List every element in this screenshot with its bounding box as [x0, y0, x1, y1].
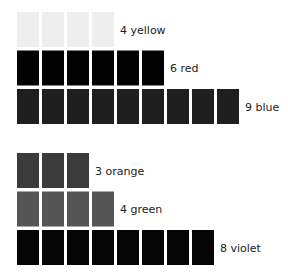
red-block: [17, 51, 39, 86]
violet-block: [167, 230, 189, 265]
violet-block: [117, 230, 139, 265]
yellow-block: [67, 12, 89, 47]
orange-block: [17, 153, 39, 188]
yellow-block: [92, 12, 114, 47]
blue-block: [42, 89, 64, 124]
red-block: [142, 51, 164, 86]
red-block: [42, 51, 64, 86]
yellow-block: [42, 12, 64, 47]
violet-block: [67, 230, 89, 265]
violet-block: [192, 230, 214, 265]
red-block: [92, 51, 114, 86]
orange-label: 3 orange: [95, 165, 144, 178]
blue-block: [192, 89, 214, 124]
block-group-1: 4 yellow6 red9 blue: [17, 12, 280, 124]
orange-block: [67, 153, 89, 188]
red-block: [67, 51, 89, 86]
green-block: [92, 192, 114, 227]
violet-block: [142, 230, 164, 265]
block-group-2: 3 orange4 green8 violet: [17, 153, 262, 265]
green-label: 4 green: [120, 203, 162, 216]
blue-block: [67, 89, 89, 124]
yellow-block: [17, 12, 39, 47]
blue-block: [117, 89, 139, 124]
green-block: [67, 192, 89, 227]
green-block: [17, 192, 39, 227]
yellow-label: 4 yellow: [120, 24, 166, 37]
blue-block: [167, 89, 189, 124]
unit-block-chart: 4 yellow6 red9 blue3 orange4 green8 viol…: [0, 0, 288, 279]
blue-block: [142, 89, 164, 124]
red-block: [117, 51, 139, 86]
blue-label: 9 blue: [245, 101, 280, 114]
red-label: 6 red: [170, 62, 199, 75]
violet-block: [92, 230, 114, 265]
violet-block: [17, 230, 39, 265]
green-block: [42, 192, 64, 227]
violet-label: 8 violet: [220, 242, 262, 255]
blue-block: [17, 89, 39, 124]
blue-block: [217, 89, 239, 124]
orange-block: [42, 153, 64, 188]
violet-block: [42, 230, 64, 265]
blue-block: [92, 89, 114, 124]
